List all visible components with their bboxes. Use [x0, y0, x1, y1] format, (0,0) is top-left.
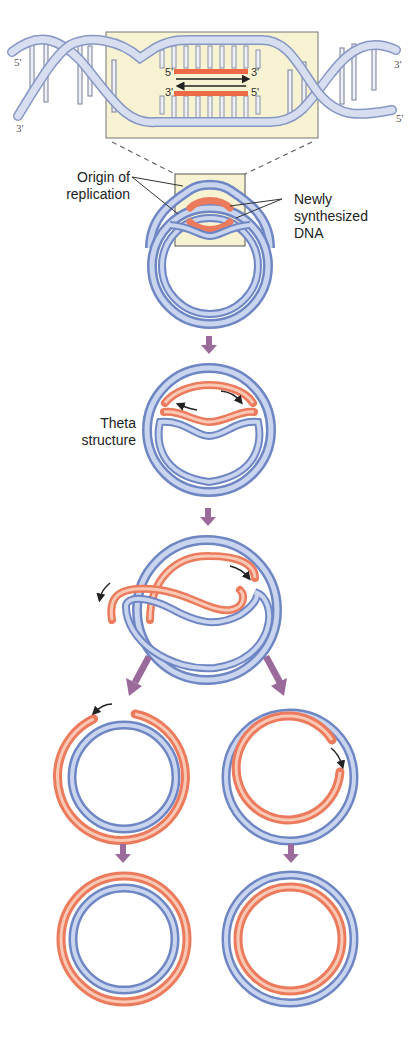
new-strand-upper: [174, 69, 248, 74]
origin-label-line2: replication: [66, 186, 130, 202]
lower-strand-5prime: 5': [251, 86, 259, 98]
fork-arrow-icon: [180, 405, 197, 410]
stage-theta: Theta structure: [82, 368, 271, 492]
down-arrow-icon: [200, 508, 216, 526]
down-arrow-icon: [283, 844, 299, 863]
left-3prime-label: 3': [16, 122, 24, 134]
stage-origin: Origin of replication Newly synthesized …: [66, 169, 368, 324]
right-5prime-label: 5': [396, 112, 404, 124]
fork-arrow-icon: [100, 583, 110, 598]
new-strand-lower: [174, 91, 248, 96]
stage-final-left: [61, 876, 187, 1002]
theta-replication-diagram: 5' 3' 3' 5' 5' 3' 3' 5': [0, 0, 409, 1042]
fork-arrow-icon: [331, 748, 342, 765]
theta-label-line1: Theta: [100, 415, 136, 431]
dna-helix: 5' 3' 3' 5' 5' 3' 3' 5': [12, 32, 404, 174]
upper-strand-5prime: 5': [165, 66, 173, 78]
left-5prime-label: 5': [14, 56, 22, 68]
lower-strand-3prime: 3': [165, 86, 173, 98]
split-arrow-right-icon: [263, 655, 287, 696]
down-arrow-icon: [201, 336, 217, 354]
down-arrow-icon: [115, 844, 131, 863]
stage-separated-right: [226, 713, 354, 841]
upper-strand-3prime: 3': [251, 66, 259, 78]
fork-arrow-icon: [95, 704, 112, 712]
stage-final-right: [226, 875, 354, 1003]
stage-separated-left: [47, 702, 195, 850]
stage-forks-progressing: [100, 540, 277, 680]
theta-label-line2: structure: [82, 432, 137, 448]
newly-label-line3: DNA: [294, 225, 324, 241]
newly-label-line2: synthesized: [294, 208, 368, 224]
split-arrow-left-icon: [126, 655, 152, 696]
newly-label-line1: Newly: [294, 191, 332, 207]
right-3prime-label: 3': [394, 58, 402, 70]
origin-label-line1: Origin of: [77, 169, 130, 185]
